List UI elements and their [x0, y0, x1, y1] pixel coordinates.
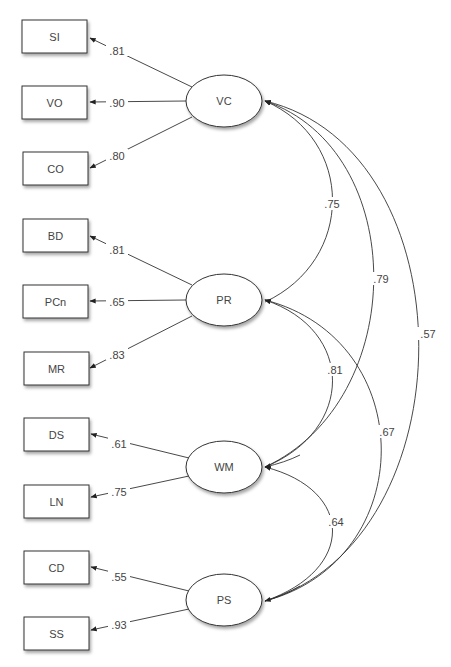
correlation-labels: .75 .79 .57 .81 .67 .64	[321, 197, 439, 528]
svg-text:VC: VC	[216, 95, 231, 107]
indicator-bd: BD	[23, 219, 88, 252]
svg-text:BD: BD	[48, 230, 63, 242]
indicator-mr: MR	[24, 352, 89, 385]
curve-pr-wm	[265, 300, 333, 467]
svg-text:PCn: PCn	[45, 296, 66, 308]
factor-pr: PR	[186, 274, 262, 326]
corr-vc-wm: .79	[373, 273, 388, 285]
factor-ellipses: VC PR WM PS	[186, 75, 262, 626]
indicator-vo: VO	[22, 86, 87, 119]
indicator-boxes: SI VO CO BD PCn MR DS LN	[22, 20, 89, 650]
factor-vc: VC	[186, 75, 262, 127]
corr-pr-ps: .67	[379, 426, 394, 438]
loading-vo: .90	[109, 97, 124, 109]
factor-ps: PS	[186, 574, 262, 626]
indicator-si: SI	[22, 20, 87, 53]
indicator-ss: SS	[24, 617, 89, 650]
loading-ss: .93	[111, 619, 126, 631]
svg-text:SS: SS	[49, 628, 64, 640]
sem-diagram: .75 .79 .57 .81 .67 .64 .81 .90 .80 .81	[0, 0, 451, 667]
corr-vc-pr: .75	[324, 198, 339, 210]
svg-text:VO: VO	[47, 97, 63, 109]
svg-text:WM: WM	[214, 461, 234, 473]
corr-vc-ps: .57	[420, 328, 435, 340]
svg-text:DS: DS	[49, 429, 64, 441]
curve-vc-wm	[265, 101, 374, 467]
corr-pr-wm: .81	[327, 364, 342, 376]
loading-co: .80	[109, 150, 124, 162]
curve-wm-ps	[265, 467, 333, 601]
svg-text:CO: CO	[47, 163, 64, 175]
loading-labels: .81 .90 .80 .81 .65 .83 .61 .75 .55 .93	[106, 44, 130, 631]
indicator-pcn: PCn	[23, 285, 88, 318]
loading-mr: .83	[109, 349, 124, 361]
indicator-cd: CD	[24, 551, 89, 584]
svg-text:PR: PR	[216, 294, 231, 306]
loading-si: .81	[109, 45, 124, 57]
loading-lines	[90, 38, 192, 630]
svg-text:MR: MR	[48, 363, 65, 375]
svg-text:SI: SI	[49, 31, 59, 43]
loading-ln: .75	[111, 486, 126, 498]
svg-text:LN: LN	[49, 496, 63, 508]
loading-ds: .61	[111, 438, 126, 450]
loading-cd: .55	[111, 571, 126, 583]
indicator-co: CO	[23, 152, 88, 185]
loading-bd: .81	[109, 244, 124, 256]
factor-wm: WM	[186, 441, 262, 493]
loading-pcn: .65	[109, 296, 124, 308]
indicator-ln: LN	[24, 485, 89, 518]
corr-wm-ps: .64	[328, 516, 343, 528]
svg-text:CD: CD	[49, 562, 65, 574]
indicator-ds: DS	[24, 418, 89, 451]
svg-text:PS: PS	[217, 594, 232, 606]
